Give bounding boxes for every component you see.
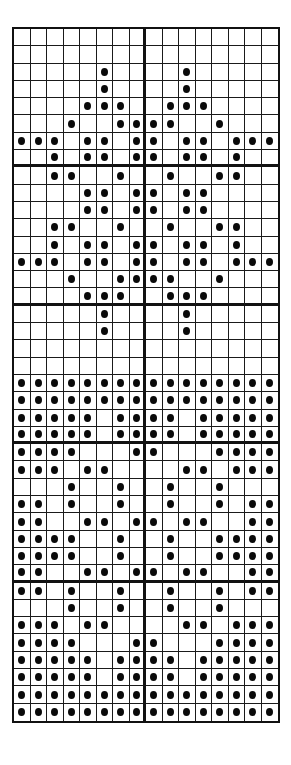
- stitch-dot: [51, 241, 58, 249]
- stitch-dot: [133, 414, 140, 422]
- stitch-dot: [200, 414, 207, 422]
- chart-cell: [229, 410, 246, 427]
- chart-cell: [97, 185, 114, 202]
- chart-cell: [229, 81, 246, 98]
- stitch-dot: [133, 189, 140, 197]
- stitch-dot: [68, 430, 75, 438]
- chart-cell: [146, 150, 163, 167]
- chart-cell: [97, 254, 114, 271]
- chart-cell: [163, 669, 180, 686]
- chart-cell: [229, 358, 246, 375]
- chart-cell: [212, 686, 229, 703]
- chart-cell: [14, 410, 31, 427]
- stitch-dot: [266, 430, 273, 438]
- chart-cell: [179, 64, 196, 81]
- chart-cell: [146, 392, 163, 409]
- stitch-dot: [117, 691, 124, 699]
- chart-cell: [14, 185, 31, 202]
- chart-cell: [64, 531, 81, 548]
- stitch-dot: [249, 414, 256, 422]
- chart-cell: [14, 150, 31, 167]
- chart-cell: [80, 323, 97, 340]
- chart-cell: [47, 29, 64, 46]
- chart-cell: [146, 375, 163, 392]
- chart-cell: [31, 686, 48, 703]
- chart-cell: [262, 340, 279, 357]
- chart-cell: [47, 340, 64, 357]
- stitch-dot: [51, 223, 58, 231]
- chart-cell: [262, 479, 279, 496]
- chart-cell: [245, 237, 262, 254]
- chart-cell: [130, 271, 147, 288]
- chart-cell: [80, 150, 97, 167]
- stitch-dot: [133, 430, 140, 438]
- chart-cell: [130, 288, 147, 305]
- chart-cell: [163, 29, 180, 46]
- chart-cell: [80, 98, 97, 115]
- chart-cell: [229, 202, 246, 219]
- chart-cell: [196, 513, 213, 530]
- chart-cell: [47, 669, 64, 686]
- chart-cell: [64, 167, 81, 184]
- chart-cell: [31, 306, 48, 323]
- chart-cell: [179, 254, 196, 271]
- stitch-dot: [133, 120, 140, 128]
- chart-cell: [64, 410, 81, 427]
- stitch-dot: [51, 466, 58, 474]
- chart-cell: [113, 340, 130, 357]
- stitch-dot: [150, 396, 157, 404]
- chart-cell: [47, 271, 64, 288]
- stitch-dot: [133, 518, 140, 526]
- stitch-dot: [216, 379, 223, 387]
- chart-cell: [179, 479, 196, 496]
- chart-cell: [179, 98, 196, 115]
- chart-cell: [212, 461, 229, 478]
- stitch-dot: [117, 275, 124, 283]
- stitch-dot: [183, 206, 190, 214]
- chart-cell: [113, 375, 130, 392]
- stitch-dot: [117, 708, 124, 716]
- stitch-dot: [183, 621, 190, 629]
- chart-cell: [212, 237, 229, 254]
- chart-cell: [146, 461, 163, 478]
- chart-cell: [196, 479, 213, 496]
- chart-cell: [130, 115, 147, 132]
- chart-cell: [146, 358, 163, 375]
- stitch-dot: [167, 102, 174, 110]
- chart-cell: [163, 617, 180, 634]
- chart-cell: [113, 704, 130, 721]
- stitch-dot: [233, 552, 240, 560]
- chart-cell: [31, 634, 48, 651]
- chart-cell: [47, 704, 64, 721]
- stitch-dot: [84, 153, 91, 161]
- chart-cell: [14, 288, 31, 305]
- chart-cell: [64, 98, 81, 115]
- chart-cell: [179, 219, 196, 236]
- chart-cell: [196, 496, 213, 513]
- stitch-dot: [84, 708, 91, 716]
- chart-cell: [163, 583, 180, 600]
- chart-cell: [229, 254, 246, 271]
- chart-cell: [80, 652, 97, 669]
- chart-cell: [80, 115, 97, 132]
- chart-cell: [163, 133, 180, 150]
- chart-cell: [97, 202, 114, 219]
- chart-cell: [14, 271, 31, 288]
- chart-cell: [245, 669, 262, 686]
- stitch-dot: [68, 604, 75, 612]
- chart-cell: [212, 600, 229, 617]
- stitch-dot: [266, 258, 273, 266]
- stitch-dot: [233, 656, 240, 664]
- stitch-dot: [101, 379, 108, 387]
- chart-cell: [212, 254, 229, 271]
- stitch-dot: [84, 102, 91, 110]
- chart-cell: [130, 323, 147, 340]
- chart-cell: [31, 410, 48, 427]
- stitch-dot: [183, 568, 190, 576]
- stitch-dot: [68, 120, 75, 128]
- stitch-dot: [18, 414, 25, 422]
- chart-cell: [31, 461, 48, 478]
- chart-cell: [14, 634, 31, 651]
- chart-cell: [196, 634, 213, 651]
- chart-cell: [64, 254, 81, 271]
